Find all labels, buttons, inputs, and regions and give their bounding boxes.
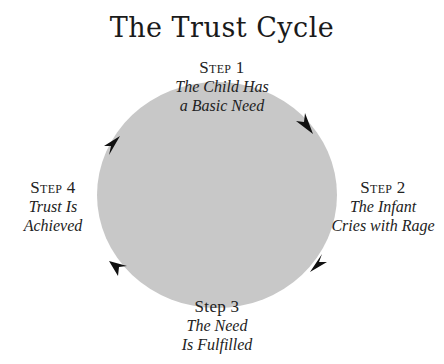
step-4-label: Step 4 Trust Is Achieved [0, 178, 106, 235]
step-2-label: Step 2 The Infant Cries with Rage [318, 178, 444, 235]
step-2-line2: Cries with Rage [318, 216, 444, 235]
step-4-line2: Achieved [0, 216, 106, 235]
step-1-heading: Step 1 [132, 58, 312, 77]
step-3-label: Step 3 The Need Is Fulfilled [147, 297, 287, 354]
step-2-heading: Step 2 [318, 178, 444, 197]
cycle-circle [97, 82, 337, 308]
step-4-heading: Step 4 [0, 178, 106, 197]
step-2-line1: The Infant [318, 197, 444, 216]
step-1-line1: The Child Has [132, 77, 312, 96]
step-1-line2: a Basic Need [132, 96, 312, 115]
step-4-line1: Trust Is [0, 197, 106, 216]
step-3-heading: Step 3 [147, 297, 287, 316]
step-3-line1: The Need [147, 316, 287, 335]
step-3-line2: Is Fulfilled [147, 335, 287, 354]
step-1-label: Step 1 The Child Has a Basic Need [132, 58, 312, 115]
